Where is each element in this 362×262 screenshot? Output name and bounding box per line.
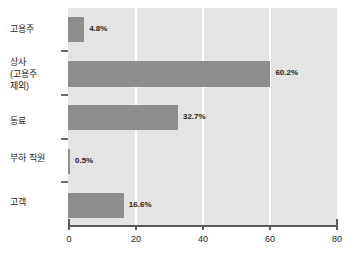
value-label-customer: 16.6%: [129, 201, 152, 209]
x-tick-label-60: 60: [265, 234, 275, 244]
x-tick-label-0: 0: [66, 234, 71, 244]
x-tick-0: [68, 225, 70, 230]
bar-customer: [68, 193, 124, 218]
category-label-4: 고객: [10, 196, 56, 208]
x-tick-40: [202, 225, 204, 230]
value-label-employer: 4.8%: [89, 25, 107, 33]
x-tick-20: [135, 225, 137, 230]
category-label-3: 부하 직원: [10, 152, 56, 164]
x-tick-60: [269, 225, 271, 230]
category-label-0: 고용주: [10, 23, 56, 35]
value-label-subordinate: 0.5%: [75, 157, 93, 165]
value-label-supervisor: 60.2%: [275, 69, 298, 77]
value-label-coworker: 32.7%: [183, 113, 206, 121]
gridline-60: [269, 8, 271, 225]
x-tick-80: [336, 225, 338, 230]
category-label-2: 동료: [10, 115, 56, 127]
bar-supervisor: [68, 61, 270, 87]
bar-coworker: [68, 105, 178, 130]
x-tick-label-40: 40: [198, 234, 208, 244]
x-tick-label-80: 80: [332, 234, 342, 244]
bar-employer: [68, 17, 84, 42]
x-tick-label-20: 20: [131, 234, 141, 244]
bar-chart: 고용주 상사 (고용주 제외) 동료 부하 직원 고객 4.8% 60.2% 3…: [0, 0, 362, 262]
category-label-1: 상사 (고용주 제외): [10, 56, 56, 92]
bar-subordinate: [68, 149, 70, 174]
